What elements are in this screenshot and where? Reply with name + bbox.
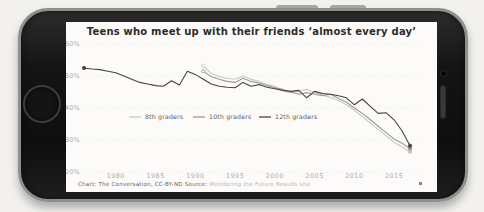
legend-label-12th-graders: 12th graders	[275, 113, 317, 121]
x-axis-tick-label: 2005	[305, 172, 323, 180]
legend-label-10th-graders: 10th graders	[209, 113, 251, 121]
series-line-8th-graders	[203, 66, 410, 152]
attribution-credit: Chart: The Conversation, CC-BY-ND Source…	[78, 181, 207, 187]
phone-screen: 60%50%40%30%20%1980198519901995200020052…	[66, 22, 437, 192]
x-axis-tick-label: 1980	[107, 172, 125, 180]
series-end-marker	[408, 144, 411, 147]
y-axis-tick-label: 40%	[66, 104, 80, 112]
y-axis-tick-label: 60%	[66, 40, 80, 48]
home-button	[23, 85, 61, 123]
legend-label-8th-graders: 8th graders	[145, 113, 183, 121]
series-line-10th-graders	[203, 71, 410, 148]
attribution-source: Monitoring the Future Results site	[207, 181, 310, 187]
camera-icon	[440, 70, 447, 77]
line-chart: 60%50%40%30%20%1980198519901995200020052…	[66, 22, 437, 192]
chart-title: Teens who meet up with their friends ‘al…	[66, 26, 437, 37]
attribution-mark	[419, 182, 422, 185]
series-start-marker	[82, 66, 85, 69]
x-axis-tick-label: 2015	[385, 172, 403, 180]
y-axis-tick-label: 30%	[66, 136, 80, 144]
x-axis-tick-label: 2000	[266, 172, 284, 180]
y-axis-tick-label: 50%	[66, 72, 80, 80]
earpiece-speaker-icon	[440, 85, 446, 119]
series-start-marker	[202, 64, 205, 67]
x-axis-tick-label: 1985	[146, 172, 164, 180]
attribution: Chart: The Conversation, CC-BY-ND Source…	[78, 181, 428, 187]
photo-background: 60%50%40%30%20%1980198519901995200020052…	[0, 0, 484, 212]
x-axis-tick-label: 1990	[186, 172, 204, 180]
series-start-marker	[202, 70, 205, 73]
y-axis-tick-label: 20%	[66, 168, 80, 176]
x-axis-tick-label: 2010	[345, 172, 363, 180]
x-axis-tick-label: 1995	[226, 172, 244, 180]
